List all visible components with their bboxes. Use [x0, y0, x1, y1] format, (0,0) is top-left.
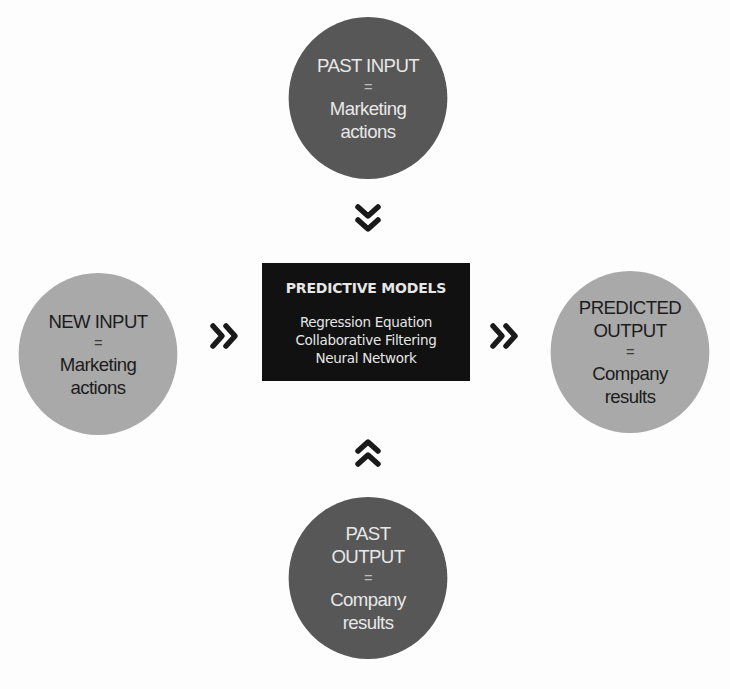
new-input-node: NEW INPUT = Marketing actions [19, 273, 178, 435]
predicted-output-label-1: PREDICTED [579, 296, 681, 319]
past-output-label-2: OUTPUT [331, 545, 404, 568]
equals-sign: = [364, 568, 372, 588]
model-item-collaborative-filtering: Collaborative Filtering [262, 331, 470, 349]
predicted-output-value-2: results [605, 385, 656, 408]
new-input-value-2: actions [71, 376, 126, 399]
predicted-output-label-2: OUTPUT [593, 319, 666, 342]
predictive-models-box: PREDICTIVE MODELS Regression Equation Co… [262, 263, 470, 381]
new-input-label: NEW INPUT [48, 310, 147, 333]
model-item-regression: Regression Equation [262, 313, 470, 331]
model-item-neural-network: Neural Network [262, 349, 470, 367]
double-chevron-down-icon [354, 203, 382, 237]
double-chevron-up-icon [354, 438, 382, 472]
predictive-models-title: PREDICTIVE MODELS [262, 280, 470, 296]
past-input-label: PAST INPUT [317, 54, 419, 77]
equals-sign: = [94, 333, 102, 353]
predicted-output-node: PREDICTED OUTPUT = Company results [551, 271, 710, 433]
past-input-node: PAST INPUT = Marketing actions [289, 17, 448, 179]
past-input-value-2: actions [341, 120, 396, 143]
past-output-label-1: PAST [346, 522, 391, 545]
past-output-value-1: Company [330, 588, 406, 611]
past-output-node: PAST OUTPUT = Company results [289, 497, 448, 659]
equals-sign: = [364, 77, 372, 97]
double-chevron-right-icon [489, 322, 523, 350]
double-chevron-right-icon [209, 322, 243, 350]
equals-sign: = [626, 342, 634, 362]
predicted-output-value-1: Company [592, 362, 668, 385]
past-input-value-1: Marketing [330, 97, 406, 120]
past-output-value-2: results [343, 611, 394, 634]
new-input-value-1: Marketing [60, 353, 136, 376]
